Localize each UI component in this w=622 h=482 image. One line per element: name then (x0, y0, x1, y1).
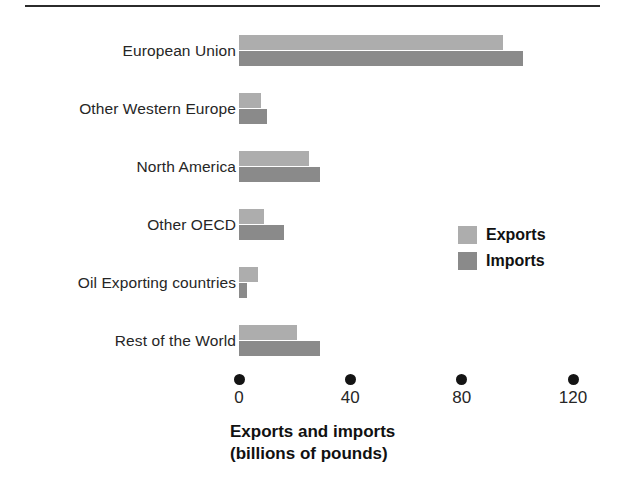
chart-figure: European UnionOther Western EuropeNorth … (0, 0, 622, 482)
x-axis-tick-marker (345, 374, 356, 385)
x-axis-title: Exports and imports (billions of pounds) (230, 421, 395, 465)
legend-item: Exports (458, 222, 546, 248)
legend-item: Imports (458, 248, 546, 274)
legend-swatch-icon (458, 226, 477, 244)
legend-swatch-icon (458, 252, 477, 270)
x-axis-tick-label: 80 (452, 388, 471, 408)
x-axis-title-line-1: Exports and imports (230, 421, 395, 443)
x-axis-tick-label: 120 (559, 388, 587, 408)
legend-label: Exports (486, 226, 546, 244)
x-axis-tick-marker (568, 374, 579, 385)
x-axis-tick-label: 0 (234, 388, 243, 408)
x-axis-tick-label: 40 (341, 388, 360, 408)
x-axis-tick-marker (234, 374, 245, 385)
x-axis-title-line-2: (billions of pounds) (230, 443, 395, 465)
x-axis-tick-marker (456, 374, 467, 385)
chart-legend: ExportsImports (458, 222, 546, 274)
legend-label: Imports (486, 252, 545, 270)
